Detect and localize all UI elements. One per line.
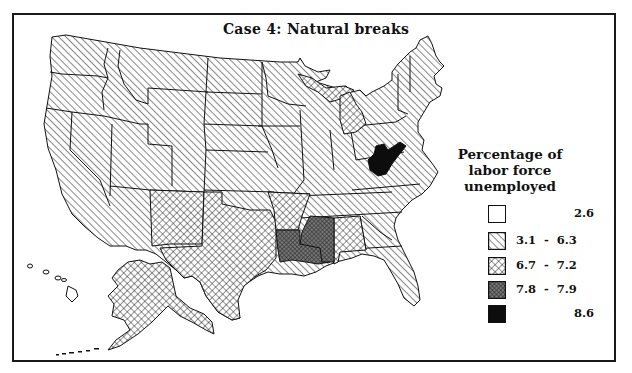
legend-title: Percentage of labor force unemployed	[450, 146, 570, 194]
legend-label: 8.6	[516, 306, 594, 320]
legend-label: 2.6	[516, 206, 594, 220]
state-hawaii	[28, 264, 79, 302]
swatch-diagonal-hatch	[488, 232, 506, 250]
legend-title-line: Percentage of	[450, 146, 570, 162]
swatch-solid	[488, 305, 506, 323]
state-new-mexico	[150, 190, 204, 246]
legend-label: 3.1 - 6.3	[516, 233, 596, 247]
legend-item: 7.8 - 7.9	[488, 281, 598, 299]
legend-item: 8.6	[488, 305, 598, 323]
swatch-dense-crosshatch	[488, 281, 506, 299]
legend-label: 7.8 - 7.9	[516, 282, 596, 296]
legend-item: 3.1 - 6.3	[488, 232, 598, 250]
swatch-light-crosshatch	[488, 257, 506, 275]
aleutian-islands	[56, 348, 99, 356]
swatch-blank	[488, 205, 506, 223]
legend-item: 6.7 - 7.2	[488, 257, 598, 275]
legend-title-line: labor force	[450, 162, 570, 178]
legend-item: 2.6	[488, 205, 598, 223]
legend-title-line: unemployed	[450, 178, 570, 194]
legend-label: 6.7 - 7.2	[516, 258, 596, 272]
